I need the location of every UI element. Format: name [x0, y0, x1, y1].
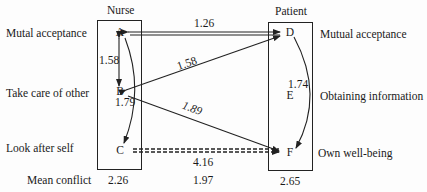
conflict-diagram: Nurse Patient Mutal acceptance Take care…: [0, 0, 427, 192]
mean-conflict-patient: 2.65: [280, 176, 300, 188]
edge-label-b-c: 1.79: [115, 97, 135, 109]
edge-b-d: [126, 36, 280, 90]
right-label-obtaining-information: Obtaining information: [320, 91, 423, 103]
left-label-take-care: Take care of other: [6, 88, 89, 100]
node-f: F: [287, 147, 293, 159]
mean-conflict-between: 1.97: [193, 175, 213, 187]
left-label-mutual-acceptance: Mutal acceptance: [6, 28, 87, 40]
right-label-mutual-acceptance: Mutual acceptance: [320, 29, 407, 41]
edge-a-d: [128, 32, 280, 35]
patient-header: Patient: [275, 6, 307, 18]
node-a: A: [116, 27, 124, 39]
left-label-look-after-self: Look after self: [6, 143, 74, 155]
nurse-header: Nurse: [107, 5, 134, 17]
node-d: D: [286, 27, 294, 39]
edge-label-d-f: 1.74: [288, 79, 308, 91]
right-label-own-well-being: Own well-being: [318, 148, 392, 160]
edge-label-a-b: 1.58: [99, 55, 119, 67]
node-e: E: [286, 90, 293, 102]
mean-conflict-label: Mean conflict: [27, 175, 91, 187]
edge-label-c-f: 4.16: [193, 157, 213, 169]
node-c: C: [116, 145, 124, 157]
edge-b-f: [128, 96, 279, 151]
mean-conflict-nurse: 2.26: [108, 175, 128, 187]
edge-c-f: [133, 149, 279, 152]
edge-label-a-d: 1.26: [194, 18, 214, 30]
